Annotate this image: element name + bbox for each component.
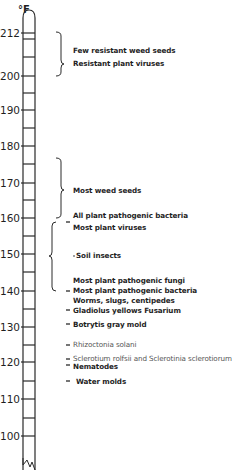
label-resistant-plant-viruses: Resistant plant viruses <box>73 59 164 68</box>
brace-160-176 <box>56 158 64 218</box>
thermometer-diagram <box>0 0 232 473</box>
label-nematodes: Nematodes <box>73 362 118 371</box>
label-soil-insects: Soil insects <box>76 251 121 260</box>
thermometer-tube <box>23 10 35 470</box>
brace-140-158 <box>49 222 56 291</box>
label-all-plant-pathogenic-bacteria: All plant pathogenic bacteria <box>73 211 188 220</box>
label-most-plant-pathogenic-bacteria: Most plant pathogenic bacteria <box>73 286 197 295</box>
label-most-plant-pathogenic-fungi: Most plant pathogenic fungi <box>73 276 185 285</box>
label-most-weed-seeds: Most weed seeds <box>73 186 141 195</box>
label-rhizoctonia-solani: Rhizoctonia solani <box>73 340 136 349</box>
label-water-molds: Water molds <box>76 377 126 386</box>
label-worms-slugs-centipedes: Worms, slugs, centipedes <box>73 296 175 305</box>
label-botrytis-gray-mold: Botrytis gray mold <box>73 320 147 329</box>
label-most-plant-viruses: Most plant viruses <box>73 223 146 232</box>
label-few-resistant-weed-seeds: Few resistant weed seeds <box>73 46 176 55</box>
brace-200-212 <box>56 32 64 76</box>
label-gladiolus-yellows-fusarium: Gladiolus yellows Fusarium <box>73 306 181 315</box>
